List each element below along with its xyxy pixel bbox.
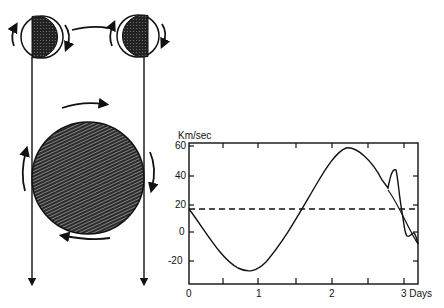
- large-star: [32, 122, 144, 234]
- rotation-arrow-icon: [150, 152, 154, 188]
- y-tick-0: 0: [179, 227, 185, 237]
- rotation-arrow-icon: [110, 25, 113, 46]
- rotation-arrow-icon: [62, 103, 104, 108]
- x-tick-3-days: 3 Days: [401, 289, 432, 299]
- figure: [0, 0, 444, 308]
- x-tick-0: 0: [186, 289, 192, 299]
- rotation-arrow-icon: [23, 151, 26, 191]
- rotation-arrow-icon: [65, 25, 69, 47]
- rotation-arrow-icon: [64, 236, 110, 239]
- x-tick-2: 2: [329, 289, 335, 299]
- y-tick-60: 60: [175, 141, 186, 151]
- small-star-right: [117, 15, 159, 57]
- rotation-arrow-icon: [12, 27, 15, 46]
- orbit-arc: [72, 27, 108, 30]
- velocity-chart: [189, 143, 418, 284]
- x-tick-1: 1: [256, 289, 262, 299]
- y-tick-20: 20: [175, 200, 186, 210]
- y-tick-40: 40: [175, 171, 186, 181]
- y-tick-neg20: -20: [168, 256, 182, 266]
- rotation-arrow-icon: [162, 24, 165, 44]
- small-star-left: [21, 16, 63, 58]
